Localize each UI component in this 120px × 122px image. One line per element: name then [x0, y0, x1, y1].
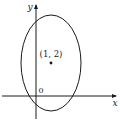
y-axis-label: y: [26, 2, 33, 12]
diagram-canvas: (1, 2) 0 y x: [0, 0, 120, 122]
center-point: [50, 62, 53, 65]
origin-label: 0: [38, 86, 43, 95]
x-axis-label: x: [112, 98, 117, 108]
center-label: (1, 2): [40, 49, 63, 59]
